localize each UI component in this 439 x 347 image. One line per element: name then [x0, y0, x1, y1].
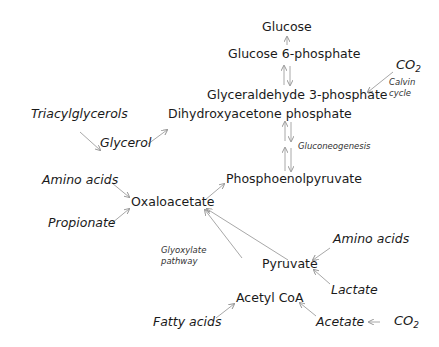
arrow-acetylcoa-oaa [205, 210, 242, 258]
node-oxaloacetate: Oxaloacetate [131, 195, 214, 209]
label-gluconeogenesis: Gluconeogenesis [298, 141, 371, 151]
label-pathway: pathway [161, 256, 198, 266]
node-triacylglycerols: Triacylglycerols [31, 107, 128, 121]
node-glucose-6-phosphate: Glucose 6-phosphate [228, 47, 360, 61]
node-dihydroxyacetone-phosphate: Dihydroxyacetone phosphate [168, 107, 352, 121]
node-glycerol: Glycerol [100, 136, 151, 150]
node-co2-bottom: CO2 [394, 314, 419, 332]
node-glucose: Glucose [262, 20, 312, 34]
label-calvin: Calvin [389, 77, 415, 87]
node-amino-acids-right: Amino acids [333, 232, 409, 246]
arrow-lactate-pyruvate [314, 270, 330, 284]
node-co2-top: CO2 [396, 58, 421, 76]
node-amino-acids-left: Amino acids [42, 173, 118, 187]
node-acetyl-coa: Acetyl CoA [236, 291, 304, 305]
arrow-pyruvate-oaa [207, 209, 288, 260]
node-pyruvate: Pyruvate [262, 257, 318, 271]
node-glyceraldehyde-3-phosphate: Glyceraldehyde 3-phosphate [207, 88, 388, 102]
node-lactate: Lactate [331, 283, 378, 297]
arrow-triacyl-glycerol [80, 132, 100, 150]
label-glyoxylate: Glyoxylate [161, 245, 206, 255]
node-phosphoenolpyruvate: Phosphoenolpyruvate [226, 172, 362, 186]
node-propionate: Propionate [48, 216, 116, 230]
node-acetate: Acetate [316, 315, 364, 329]
gluconeogenesis-diagram: Glucose Glucose 6-phosphate CO2 Calvin c… [0, 0, 439, 347]
label-cycle: cycle [389, 88, 411, 98]
node-fatty-acids: Fatty acids [153, 315, 221, 329]
